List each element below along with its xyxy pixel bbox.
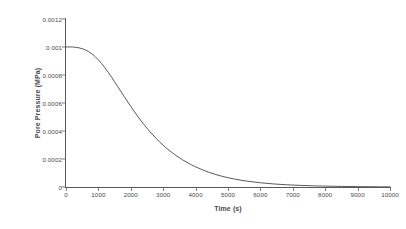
chart-container: 00.00020.00040.00060.00080.0010.0012 010… <box>0 0 406 229</box>
series-line-pore-pressure <box>66 47 390 187</box>
series-layer <box>0 0 406 229</box>
